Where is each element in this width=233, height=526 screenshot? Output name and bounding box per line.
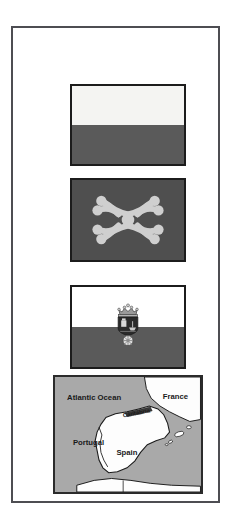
labaro-centre-disc: [122, 214, 135, 227]
flag-band-white: [72, 86, 184, 125]
flag-of-cantabria-plain: [70, 84, 186, 166]
labaro-cantabro-icon: [72, 180, 184, 260]
map-label-atlantic-ocean: Atlantic Ocean: [67, 393, 121, 402]
map-label-portugal: Portugal: [73, 438, 104, 447]
map-label-france: France: [163, 392, 189, 401]
pendant-ornament-icon: [123, 336, 133, 346]
shield-icon: [118, 317, 138, 336]
flag-with-labaro-cantabro: [70, 178, 186, 262]
coat-of-arms-of-cantabria: [113, 302, 143, 348]
map-label-spain: Spain: [116, 448, 137, 457]
locator-map-of-cantabria: Atlantic Ocean France Portugal Spain Can…: [53, 375, 203, 494]
flag-of-cantabria-with-coat-of-arms: [70, 285, 186, 369]
flag-band-red: [72, 125, 184, 164]
crown-icon: [118, 304, 139, 317]
page-canvas: Atlantic Ocean France Portugal Spain Can…: [0, 0, 233, 526]
image-frame: Atlantic Ocean France Portugal Spain Can…: [11, 26, 220, 503]
